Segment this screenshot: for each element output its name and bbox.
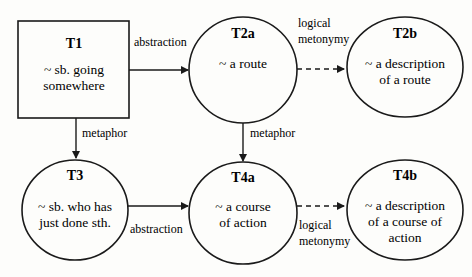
edge-t1-t2a-label: abstraction [134,35,187,49]
edge-t4a-t4b-label-2: metonymy [299,234,350,248]
edge-t2a-t2b-label-2: metonymy [298,32,349,46]
node-t1-title: T1 [66,36,82,51]
node-t1-line-2: somewhere [43,78,104,93]
node-t4a-line-2: of action [219,215,267,230]
edge-t2a-t4a-label: metaphor [250,126,295,140]
node-t3: T3 ~ sb. who has just done sth. [22,160,128,260]
node-t3-line-2: just done sth. [38,215,111,230]
edge-t3-t4a: abstraction [128,206,188,236]
node-t4b-title: T4b [393,168,417,183]
node-t2a-title: T2a [231,26,254,41]
node-t4a: T4a ~ a course of action [189,162,297,264]
node-t4b-line-3: action [389,230,422,245]
node-t4a-title: T4a [231,170,254,185]
node-t2b-line-2: of a route [379,72,431,87]
node-t2b-title: T2b [393,26,417,41]
node-t4b: T4b ~ a description of a course of actio… [347,160,463,260]
node-t4b-line-1: ~ a description [365,198,445,213]
node-t2b-line-1: ~ a description [365,56,445,71]
node-t4b-line-2: of a course of [368,214,442,229]
node-t3-title: T3 [67,168,83,183]
node-t3-line-1: ~ sb. who has [38,199,112,214]
edge-t2a-t4a: metaphor [243,123,295,161]
node-t1-line-1: ~ sb. going [44,62,104,77]
edge-t2a-t2b-label-1: logical [298,16,331,30]
node-t2a-line-1: ~ a route [219,56,267,71]
edge-t4a-t4b-label-1: logical [299,218,332,232]
node-t2b: T2b ~ a description of a route [347,17,463,117]
edge-t2a-t2b: logical metonymy [297,16,349,69]
edge-t3-t4a-label: abstraction [130,222,183,236]
node-t1: T1 ~ sb. going somewhere [18,21,129,118]
edge-t4a-t4b: logical metonymy [297,206,350,248]
edge-t1-t2a: abstraction [129,35,188,70]
node-t4a-line-1: ~ a course [215,199,270,214]
edge-t1-t3: metaphor [76,118,127,158]
edge-t1-t3-label: metaphor [82,126,127,140]
diagram-canvas: T1 ~ sb. going somewhere T2a ~ a route T… [0,0,472,277]
node-t2a: T2a ~ a route [189,17,297,123]
